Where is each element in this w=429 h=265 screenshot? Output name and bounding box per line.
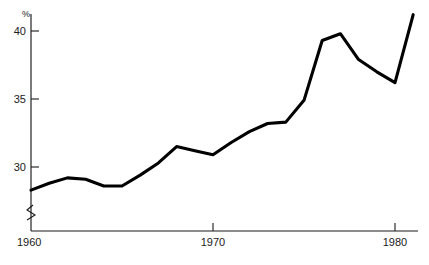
x-tick-label: 1970 [201,236,225,248]
y-tick-label: 35 [14,93,26,105]
chart-svg: 303540 196019701980 % [0,0,429,265]
x-tick-label: 1960 [17,236,41,248]
line-chart: 303540 196019701980 % [0,0,429,265]
y-axis-unit-label: % [22,9,30,19]
chart-background [0,0,429,265]
x-tick-label: 1980 [383,236,407,248]
y-tick-label: 30 [14,161,26,173]
y-tick-label: 40 [14,25,26,37]
